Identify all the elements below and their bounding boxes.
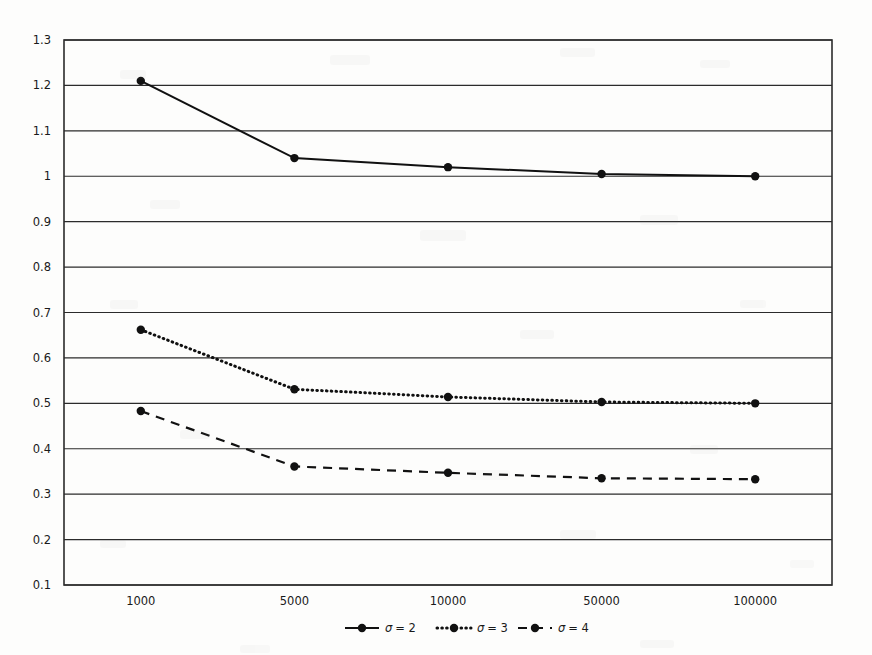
x-axis-tick-label: 100000 — [733, 594, 777, 608]
y-axis-tick-label: 0.7 — [33, 306, 51, 320]
data-point — [444, 393, 452, 401]
scan-smudge — [520, 330, 554, 339]
scan-smudge — [420, 230, 466, 241]
data-point — [751, 399, 759, 407]
x-axis-tick-label: 5000 — [280, 594, 309, 608]
x-axis-tick-label: 10000 — [430, 594, 467, 608]
scan-smudge — [240, 645, 270, 653]
y-axis-tick-label: 0.8 — [33, 260, 51, 274]
scan-smudge — [790, 560, 814, 568]
scan-smudge — [700, 60, 730, 68]
data-point — [751, 475, 759, 483]
legend-label: σ= 4 — [558, 621, 589, 635]
x-axis-tick-label: 50000 — [583, 594, 620, 608]
scan-smudge — [640, 215, 678, 225]
scan-smudge — [560, 48, 595, 57]
chart-background — [0, 0, 872, 655]
data-point — [290, 385, 298, 393]
data-point — [290, 462, 298, 470]
y-axis-tick-label: 1 — [44, 169, 51, 183]
legend-marker-swatch — [450, 624, 458, 632]
y-axis-tick-label: 0.3 — [33, 487, 51, 501]
scan-smudge — [740, 300, 766, 308]
scan-smudge — [690, 445, 718, 454]
data-point — [597, 398, 605, 406]
data-point — [597, 170, 605, 178]
scan-smudge — [100, 540, 126, 548]
scan-smudge — [180, 430, 210, 439]
y-axis-tick-label: 1.2 — [33, 78, 51, 92]
y-axis-tick-label: 1.1 — [33, 124, 51, 138]
data-point — [137, 326, 145, 334]
scan-smudge — [150, 200, 180, 209]
y-axis-tick-label: 1.3 — [33, 33, 51, 47]
data-point — [751, 172, 759, 180]
data-point — [597, 474, 605, 482]
y-axis-tick-label: 0.9 — [33, 215, 51, 229]
x-axis-tick-label: 1000 — [126, 594, 155, 608]
scan-smudge — [330, 55, 370, 65]
scan-smudge — [640, 640, 674, 648]
scan-smudge — [110, 300, 138, 309]
scan-smudge — [560, 530, 596, 539]
legend-marker-swatch — [531, 624, 539, 632]
y-axis-tick-label: 0.6 — [33, 351, 51, 365]
data-point — [444, 469, 452, 477]
scan-smudge — [120, 70, 146, 79]
y-axis-tick-label: 0.4 — [33, 442, 51, 456]
y-axis-tick-label: 0.2 — [33, 533, 51, 547]
chart-container: 1.31.21.110.90.80.70.60.50.40.30.20.1 10… — [0, 0, 872, 655]
data-point — [290, 154, 298, 162]
y-axis-tick-label: 0.5 — [33, 396, 51, 410]
legend-label: σ= 2 — [385, 621, 416, 635]
scan-smudge — [470, 470, 510, 480]
legend-label: σ= 3 — [477, 621, 508, 635]
line-chart: 1.31.21.110.90.80.70.60.50.40.30.20.1 10… — [0, 0, 872, 655]
legend-marker-swatch — [358, 624, 366, 632]
y-axis-tick-label: 0.1 — [33, 578, 51, 592]
data-point — [137, 407, 145, 415]
data-point — [444, 163, 452, 171]
